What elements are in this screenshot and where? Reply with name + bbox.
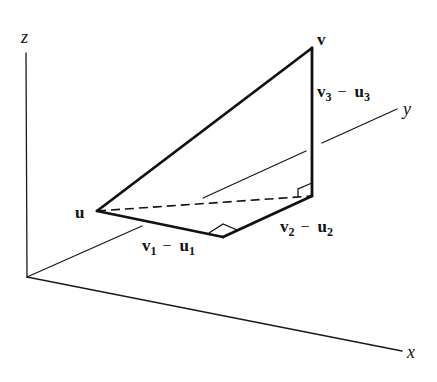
y-axis-label: y: [401, 99, 411, 119]
c3-sub-a: 3: [326, 90, 332, 104]
c1-vec-b: u: [180, 236, 189, 255]
component-label-1: v1−u1: [142, 236, 195, 258]
component-label-2: v2−u2: [280, 217, 333, 239]
right-angle-marker-right: [298, 183, 312, 197]
y-axis-segment-back: [322, 109, 397, 143]
c3-minus: −: [338, 83, 347, 100]
c2-sub-a: 2: [289, 225, 295, 239]
c2-minus: −: [301, 218, 310, 235]
edge-v1-component: [97, 211, 223, 237]
c1-minus: −: [163, 237, 172, 254]
c2-sub-b: 2: [327, 225, 333, 239]
component-path: [97, 48, 312, 237]
y-axis-segment-front: [27, 226, 142, 277]
y-axis-segment-middle: [203, 151, 306, 198]
c1-sub-a: 1: [151, 244, 157, 258]
point-u-label: u: [75, 203, 84, 222]
dashed-projection-line: [97, 196, 312, 211]
x-axis-label: x: [406, 342, 415, 362]
c3-sub-b: 3: [364, 90, 370, 104]
c3-vec-b: u: [355, 82, 364, 101]
point-v-label: v: [317, 30, 326, 49]
z-axis: [26, 53, 27, 277]
c1-sub-b: 1: [189, 244, 195, 258]
x-axis: [27, 277, 402, 351]
edge-u-to-v: [97, 48, 312, 211]
c2-vec-b: u: [318, 217, 327, 236]
edge-v2-component: [223, 196, 312, 237]
vector-components-diagram: z y x u v v3−u3 v2−u2 v1−u1: [0, 0, 437, 382]
component-label-3: v3−u3: [317, 82, 370, 104]
z-axis-label: z: [20, 27, 28, 47]
